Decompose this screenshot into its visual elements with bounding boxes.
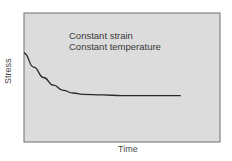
x-axis-label: Time [118,144,138,154]
y-axis-label: Stress [3,58,13,84]
chart-canvas [0,0,232,161]
annotation-constant-temperature: Constant temperature [69,41,161,52]
annotation-constant-strain: Constant strain [69,30,133,41]
